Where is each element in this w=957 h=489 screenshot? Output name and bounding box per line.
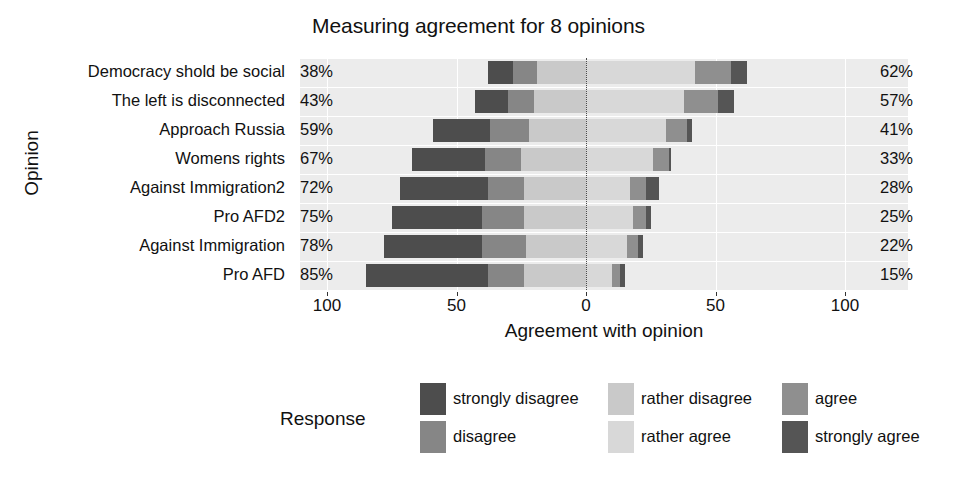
left-percentage-label: 85%	[300, 265, 333, 284]
bar-segment	[534, 90, 586, 113]
bar-segment	[653, 148, 669, 171]
gridline-horizontal	[300, 145, 908, 146]
bar-segment	[488, 264, 524, 287]
bar-segment	[586, 264, 612, 287]
gridline-horizontal	[300, 290, 908, 291]
y-axis-tick-label: Pro AFD	[223, 265, 285, 284]
bar-segment	[612, 264, 620, 287]
legend-label: strongly agree	[815, 427, 920, 446]
gridline-horizontal	[300, 116, 908, 117]
bar-segment	[524, 264, 586, 287]
right-percentage-label: 28%	[880, 178, 913, 197]
bar-segment	[586, 206, 633, 229]
x-tick-label: 100	[831, 296, 859, 316]
bar-segment	[488, 177, 524, 200]
x-tick-label: 50	[447, 296, 466, 316]
bar-segment	[537, 61, 586, 84]
legend-swatch	[782, 421, 808, 453]
bar-segment	[695, 61, 731, 84]
right-percentage-label: 15%	[880, 265, 913, 284]
bar-row	[300, 90, 908, 113]
bar-segment	[718, 90, 734, 113]
bar-segment	[586, 61, 695, 84]
bar-segment	[586, 119, 666, 142]
legend-title: Response	[280, 408, 366, 430]
bar-segment	[627, 235, 637, 258]
legend-swatch	[608, 421, 634, 453]
right-percentage-label: 33%	[880, 149, 913, 168]
bar-segment	[586, 177, 630, 200]
bar-segment	[638, 235, 643, 258]
bar-segment	[687, 119, 692, 142]
bar-row	[300, 119, 908, 142]
bar-segment	[488, 61, 514, 84]
y-axis-tick-label: The left is disconnected	[112, 91, 285, 110]
bar-segment	[586, 235, 627, 258]
y-axis-tick-label: Against Immigration2	[130, 178, 285, 197]
legend-label: disagree	[453, 427, 516, 446]
bar-segment	[526, 235, 586, 258]
legend-swatch	[420, 383, 446, 415]
left-percentage-label: 72%	[300, 178, 333, 197]
bar-row	[300, 206, 908, 229]
y-axis-tick-labels: Democracy shold be socialThe left is dis…	[60, 58, 285, 290]
y-axis-tick-label: Womens rights	[175, 149, 285, 168]
bar-segment	[482, 235, 526, 258]
bar-segment	[412, 148, 485, 171]
y-axis-tick-label: Pro AFD2	[213, 207, 285, 226]
x-tick-label: 100	[313, 296, 341, 316]
bar-segment	[684, 90, 718, 113]
bar-row	[300, 235, 908, 258]
left-percentage-label: 38%	[300, 62, 333, 81]
y-axis-title: Opinion	[21, 108, 43, 218]
legend-swatch	[782, 383, 808, 415]
legend-label: rather agree	[641, 427, 731, 446]
bar-segment	[524, 177, 586, 200]
legend-label: rather disagree	[641, 389, 752, 408]
bar-row	[300, 264, 908, 287]
bar-segment	[490, 119, 529, 142]
legend-swatch	[420, 421, 446, 453]
right-percentage-label: 57%	[880, 91, 913, 110]
x-axis-title: Agreement with opinion	[300, 320, 908, 342]
bar-segment	[586, 148, 653, 171]
bar-row	[300, 177, 908, 200]
left-percentage-label: 43%	[300, 91, 333, 110]
bar-segment	[392, 206, 483, 229]
left-percentage-label: 75%	[300, 207, 333, 226]
bar-segment	[524, 206, 586, 229]
bar-segment	[669, 148, 672, 171]
bar-segment	[482, 206, 523, 229]
bar-segment	[384, 235, 482, 258]
left-percentage-label: 78%	[300, 236, 333, 255]
plot-panel	[300, 58, 908, 290]
bar-segment	[485, 148, 521, 171]
bar-segment	[646, 206, 651, 229]
bar-row	[300, 148, 908, 171]
bar-segment	[666, 119, 687, 142]
y-axis-tick-label: Democracy shold be social	[88, 62, 285, 81]
gridline-horizontal	[300, 203, 908, 204]
bar-segment	[529, 119, 586, 142]
bar-row	[300, 61, 908, 84]
bar-segment	[731, 61, 747, 84]
bar-segment	[400, 177, 488, 200]
gridline-horizontal	[300, 261, 908, 262]
legend-label: agree	[815, 389, 857, 408]
bar-segment	[633, 206, 646, 229]
right-percentage-label: 62%	[880, 62, 913, 81]
right-percentage-labels: 62%57%41%33%28%25%22%15%	[880, 58, 935, 290]
legend-swatch	[608, 383, 634, 415]
right-percentage-label: 22%	[880, 236, 913, 255]
legend: Response strongly disagreedisagreerather…	[290, 382, 890, 462]
bar-segment	[433, 119, 490, 142]
chart-title: Measuring agreement for 8 opinions	[0, 14, 957, 38]
x-tick-label: 50	[706, 296, 725, 316]
legend-label: strongly disagree	[453, 389, 579, 408]
right-percentage-label: 41%	[880, 120, 913, 139]
left-percentage-label: 67%	[300, 149, 333, 168]
bar-segment	[475, 90, 509, 113]
right-percentage-label: 25%	[880, 207, 913, 226]
left-percentage-label: 59%	[300, 120, 333, 139]
bar-segment	[366, 264, 488, 287]
